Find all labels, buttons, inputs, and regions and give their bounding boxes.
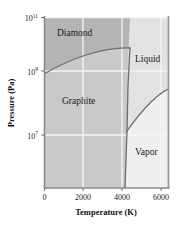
region-label-diamond: Diamond <box>57 28 93 38</box>
y-tick-label-1e11: 1011 <box>25 13 39 24</box>
x-tick-label-0: 0 <box>43 193 47 202</box>
y-tick-labels: 1011 109 107 <box>25 13 39 141</box>
region-label-liquid: Liquid <box>135 54 161 64</box>
carbon-phase-diagram-chart: 1011 109 107 0 2000 4000 6000 Temperatur… <box>0 0 191 237</box>
x-axis-title: Temperature (K) <box>75 207 137 217</box>
y-tick-label-1e9: 109 <box>27 66 38 77</box>
x-tick-label-6000: 6000 <box>153 193 169 202</box>
x-tick-label-4000: 4000 <box>114 193 130 202</box>
region-label-graphite: Graphite <box>62 96 95 106</box>
x-tick-labels: 0 2000 4000 6000 <box>43 193 170 202</box>
y-tick-label-1e7: 107 <box>27 130 38 141</box>
region-label-vapor: Vapor <box>135 147 159 157</box>
y-axis-title: Pressure (Pa) <box>6 79 16 128</box>
phase-diagram-figure: 1011 109 107 0 2000 4000 6000 Temperatur… <box>0 0 191 237</box>
x-tick-label-2000: 2000 <box>75 193 91 202</box>
